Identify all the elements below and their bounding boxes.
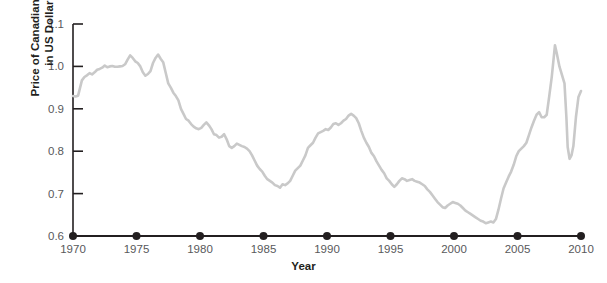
- chart-container: 0.60.70.80.91.01.1 197019751980198519901…: [0, 0, 607, 283]
- x-axis-tick-label: 1995: [378, 243, 404, 255]
- x-axis-tick-label: 2010: [568, 243, 594, 255]
- x-axis-tick-marker: [387, 232, 395, 240]
- x-axis-tick-marker: [577, 232, 585, 240]
- x-axis-tick-marker: [450, 232, 458, 240]
- data-series-line: [73, 45, 581, 223]
- x-axis-tick-label: 1990: [314, 243, 340, 255]
- y-axis-ticks: [73, 24, 83, 236]
- x-axis-tick-label: 2005: [505, 243, 531, 255]
- y-axis-title: Price of Canadian Dollar in US Dollars: [25, 0, 59, 145]
- chart-plot-area: [0, 0, 607, 283]
- y-axis-title-line1: Price of Canadian Dollar: [28, 0, 42, 96]
- y-axis-tick-label: 0.8: [24, 145, 64, 157]
- x-axis-tick-label: 1980: [187, 243, 213, 255]
- x-axis-title: Year: [0, 260, 607, 272]
- y-axis-tick-label: 0.7: [24, 188, 64, 200]
- x-axis-tick-label: 1975: [124, 243, 150, 255]
- x-axis-tick-marker: [260, 232, 268, 240]
- x-axis-tick-marker: [69, 232, 77, 240]
- x-axis-tick-marker: [323, 232, 331, 240]
- y-axis-tick-label: 0.6: [24, 230, 64, 242]
- x-axis-tick-marker: [514, 232, 522, 240]
- x-axis-tick-label: 2000: [441, 243, 467, 255]
- x-axis-tick-label: 1985: [251, 243, 277, 255]
- chart-axes: [69, 24, 585, 240]
- y-axis-title-line2: in US Dollars: [42, 0, 56, 66]
- x-axis-tick-marker: [133, 232, 141, 240]
- x-axis-tick-marker: [196, 232, 204, 240]
- x-axis-tick-label: 1970: [60, 243, 86, 255]
